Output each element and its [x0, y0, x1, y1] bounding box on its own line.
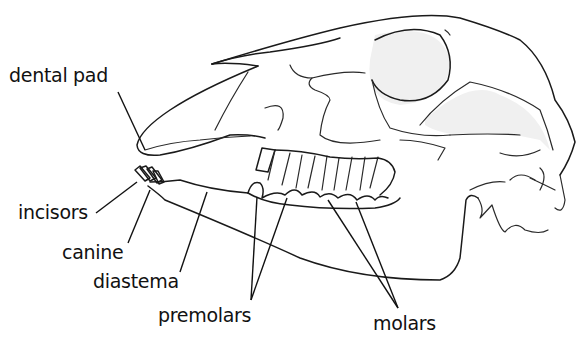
- orbit-tick: [445, 30, 450, 35]
- label-incisors: incisors: [18, 203, 88, 222]
- jaw-process-details: [470, 168, 544, 190]
- temporal-shade: [425, 90, 550, 150]
- suture-6: [400, 140, 445, 160]
- zygomatic-line: [450, 134, 520, 135]
- label-dental-pad: dental pad: [9, 66, 108, 85]
- upper-teeth: [256, 148, 395, 195]
- mandible-outline: [148, 186, 478, 280]
- occipital: [555, 175, 565, 210]
- suture-1: [290, 65, 365, 78]
- suture-3: [265, 106, 283, 130]
- dental-pad-edge: [145, 136, 250, 150]
- suture-2: [309, 78, 380, 143]
- suture-4: [215, 72, 248, 130]
- mandible-top: [150, 180, 248, 193]
- leader-canine: [128, 190, 150, 243]
- leader-molars-2: [356, 202, 398, 308]
- nasal-tip: [212, 63, 258, 66]
- leader-molars-1: [328, 200, 398, 308]
- label-premolars: premolars: [158, 306, 251, 325]
- orbit-shade: [369, 31, 450, 105]
- label-diastema: diastema: [93, 272, 179, 291]
- snout-outline: [137, 66, 265, 155]
- skull-drawing: [0, 0, 583, 337]
- leader-incisors: [96, 182, 137, 213]
- suture-7: [500, 150, 540, 156]
- label-canine: canine: [62, 243, 123, 262]
- leader-dental-pad: [118, 92, 145, 150]
- nasal-line: [212, 38, 340, 64]
- skull-diagram: dental pad incisors canine diastema prem…: [0, 0, 583, 337]
- lower-teeth: [248, 182, 400, 208]
- jaw-process: [478, 198, 548, 233]
- leader-diastema: [180, 192, 207, 272]
- label-molars: molars: [373, 314, 436, 333]
